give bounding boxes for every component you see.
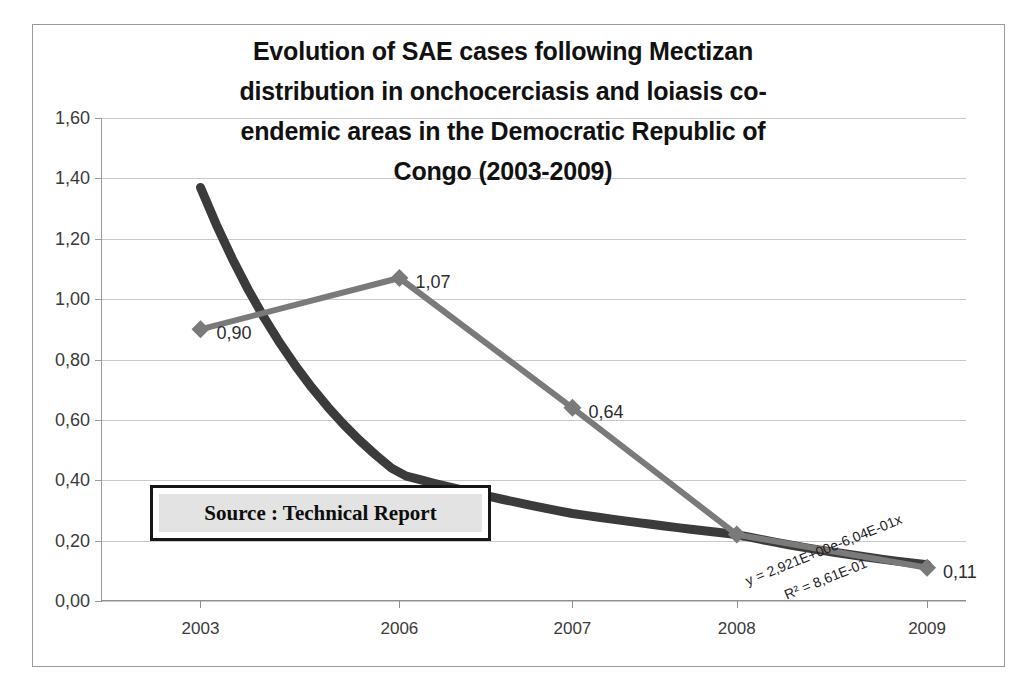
source-annotation-box: Source : Technical Report [150,485,491,541]
x-tick-label: 2008 [718,619,756,639]
data-point-marker [191,320,209,338]
source-annotation-fill: Source : Technical Report [159,494,482,532]
y-tick-label: 1,40 [55,168,90,189]
y-tick-label: 1,60 [55,108,90,129]
x-tick-mark [927,600,928,608]
y-tick-label: 0,40 [55,470,90,491]
x-tick-mark [737,600,738,608]
y-tick-label: 0,80 [55,349,90,370]
chart-title-line-4: Congo (2003-2009) [138,151,868,191]
x-tick-mark [399,600,400,608]
data-point-label: 1,07 [415,271,450,292]
gridline [101,601,966,602]
data-point-label: 0,11 [943,561,977,582]
chart-title-line-3: endemic areas in the Democratic Republic… [138,111,868,151]
y-tick-label: 0,20 [55,530,90,551]
chart-title-line-2: distribution in onchocerciasis and loias… [138,71,868,111]
y-tick-label: 1,00 [55,289,90,310]
data-point-label: 0,90 [216,323,251,344]
x-tick-label: 2006 [381,619,419,639]
data-point-label: 0,64 [588,401,623,422]
x-tick-label: 2003 [182,619,220,639]
y-tick-mark [95,601,102,602]
y-tick-label: 0,60 [55,409,90,430]
x-tick-label: 2009 [908,619,946,639]
y-tick-label: 1,20 [55,228,90,249]
chart-figure: Evolution of SAE cases following Mectiza… [32,24,1005,667]
chart-title-line-1: Evolution of SAE cases following Mectiza… [138,31,868,71]
y-tick-label: 0,00 [55,591,90,612]
x-tick-mark [572,600,573,608]
source-annotation-text: Source : Technical Report [204,501,436,526]
x-tick-label: 2007 [554,619,592,639]
chart-title: Evolution of SAE cases following Mectiza… [138,31,868,191]
x-tick-mark [200,600,201,608]
